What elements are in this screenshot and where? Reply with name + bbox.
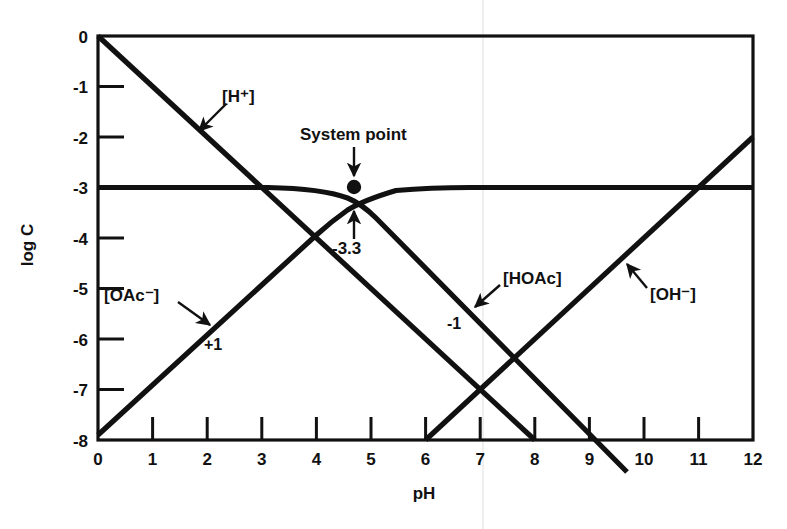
x-tick-0: 0 — [93, 450, 102, 469]
x-tick-7: 7 — [475, 450, 484, 469]
x-tick-2: 2 — [202, 450, 211, 469]
x-tick-4: 4 — [312, 450, 322, 469]
x-tick-12: 12 — [744, 450, 763, 469]
curve-label-oh-minus: [OH⁻] — [650, 285, 696, 304]
y-tick-7: -7 — [73, 381, 88, 400]
annotation-arrows — [178, 104, 647, 325]
system-point-label: System point — [300, 125, 407, 144]
slope-label-hoac: -1 — [447, 315, 461, 332]
slope-label-oac-minus: +1 — [204, 336, 222, 353]
arrow-oh-minus — [627, 264, 647, 288]
x-tick-5: 5 — [366, 450, 375, 469]
y-tick-8: -8 — [73, 432, 88, 451]
y-tick-4: -4 — [73, 230, 89, 249]
arrow-hoac — [475, 285, 500, 307]
curve-oh-minus — [426, 137, 753, 440]
x-tick-10: 10 — [635, 450, 654, 469]
arrow-oac-minus — [178, 302, 210, 325]
chart-svg: 0 -1 -2 -3 -4 -5 -6 -7 -8 0 1 2 3 4 5 6 … — [0, 0, 787, 529]
y-tick-6: -6 — [73, 331, 88, 350]
y-axis-ticks — [98, 87, 124, 390]
y-tick-1: -1 — [73, 78, 88, 97]
y-tick-2: -2 — [73, 129, 88, 148]
y-tick-0: 0 — [79, 28, 88, 47]
x-tick-11: 11 — [690, 450, 708, 469]
y-tick-5: -5 — [73, 280, 88, 299]
y-tick-labels: 0 -1 -2 -3 -4 -5 -6 -7 -8 — [73, 28, 89, 451]
x-tick-8: 8 — [530, 450, 539, 469]
curve-label-h-plus: [H⁺] — [222, 87, 255, 106]
log-concentration-diagram: 0 -1 -2 -3 -4 -5 -6 -7 -8 0 1 2 3 4 5 6 … — [0, 0, 787, 529]
x-tick-6: 6 — [421, 450, 430, 469]
plot-frame — [98, 36, 753, 440]
x-tick-9: 9 — [585, 450, 594, 469]
x-tick-labels: 0 1 2 3 4 5 6 7 8 9 10 11 12 — [93, 450, 762, 469]
y-tick-3: -3 — [73, 179, 88, 198]
curve-label-oac-minus: [OAc⁻] — [104, 286, 159, 305]
y-axis-title: log C — [18, 224, 37, 267]
x-axis-title: pH — [413, 484, 436, 503]
x-tick-3: 3 — [257, 450, 266, 469]
system-point-marker — [347, 180, 361, 194]
arrow-h-plus — [199, 104, 226, 131]
curve-label-hoac: [HOAc] — [503, 269, 562, 288]
intersection-value-label: -3.3 — [332, 239, 361, 258]
x-tick-1: 1 — [148, 450, 157, 469]
